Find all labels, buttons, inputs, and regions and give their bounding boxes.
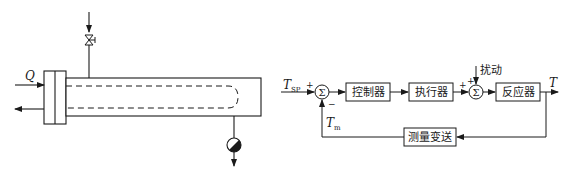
measured-subscript: m bbox=[334, 124, 341, 132]
drain-sensor-icon bbox=[227, 138, 241, 152]
svg-text:Σ: Σ bbox=[318, 87, 325, 98]
output-label: T bbox=[549, 76, 558, 90]
summing-junction-1: Σ bbox=[315, 85, 329, 99]
minus-sign: − bbox=[328, 99, 336, 109]
summing-junction-2: Σ bbox=[469, 85, 483, 99]
plus-sign-1: + bbox=[306, 80, 314, 90]
disturbance-label: 扰动 bbox=[480, 63, 502, 77]
setpoint-subscript: SP bbox=[291, 86, 301, 94]
svg-text:Σ: Σ bbox=[472, 87, 479, 98]
diagram-canvas: Q T SP + Σ − 控制器 执行器 + bbox=[0, 0, 565, 173]
controller-label: 控制器 bbox=[352, 85, 385, 99]
plus-sign-2: + bbox=[459, 80, 467, 90]
control-block-diagram: T SP + Σ − 控制器 执行器 + Σ 扰动 + 反应器 bbox=[281, 63, 558, 146]
reactor-shell bbox=[66, 78, 261, 116]
flow-label-q: Q bbox=[25, 69, 35, 83]
measurement-label: 测量变送 bbox=[408, 130, 452, 144]
control-valve-icon bbox=[85, 35, 95, 45]
process-schematic: Q bbox=[15, 12, 261, 166]
actuator-label: 执行器 bbox=[415, 85, 448, 99]
plus-sign-3: + bbox=[467, 76, 475, 86]
reactor-label: 反应器 bbox=[502, 85, 535, 99]
